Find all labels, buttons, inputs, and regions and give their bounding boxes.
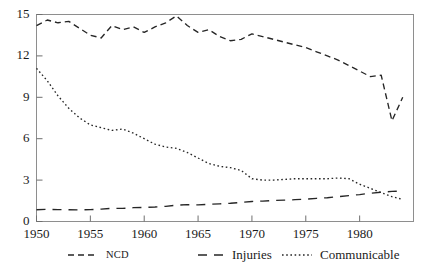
y-tick-label: 15: [17, 6, 30, 21]
series-group: [37, 16, 403, 210]
y-tick-label: 9: [23, 89, 30, 104]
legend-label-injuries: Injuries: [232, 247, 272, 262]
chart-legend: NCDInjuriesCommunicable: [68, 247, 400, 262]
legend-label-communicable: Communicable: [320, 247, 400, 262]
x-tick-label: 1950: [24, 226, 50, 241]
series-line-ncd: [37, 16, 403, 121]
legend-label-ncd: NCD: [106, 249, 129, 260]
y-tick-label: 12: [17, 47, 30, 62]
x-axis: 1950195519601965197019751980: [24, 216, 373, 241]
series-line-communicable: [37, 68, 403, 199]
x-tick-label: 1980: [347, 226, 373, 241]
y-axis: 03691215: [17, 6, 43, 228]
chart-container: 03691215 1950195519601965197019751980 NC…: [0, 0, 424, 268]
y-tick-label: 3: [23, 172, 30, 187]
x-tick-label: 1965: [185, 226, 211, 241]
line-chart: 03691215 1950195519601965197019751980 NC…: [0, 0, 424, 268]
x-tick-label: 1970: [239, 226, 265, 241]
x-tick-label: 1960: [131, 226, 157, 241]
plot-frame: [37, 15, 414, 222]
x-tick-label: 1955: [77, 226, 103, 241]
series-line-injuries: [37, 191, 403, 210]
x-tick-label: 1975: [293, 226, 319, 241]
y-tick-label: 6: [23, 130, 30, 145]
